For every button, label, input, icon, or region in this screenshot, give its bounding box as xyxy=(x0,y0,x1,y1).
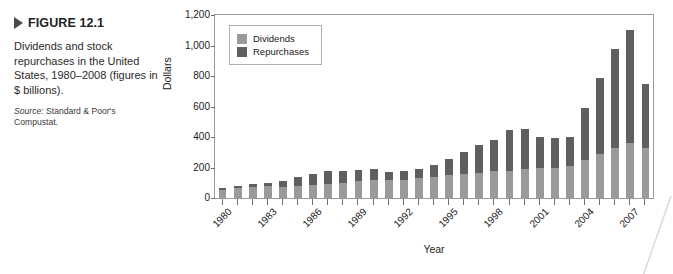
x-axis-tick-mark xyxy=(584,199,585,205)
bar-group[interactable] xyxy=(370,169,378,198)
y-axis-tick-label: 600 xyxy=(193,100,210,111)
bar-segment-dividends xyxy=(506,171,514,198)
bar-group[interactable] xyxy=(400,171,408,198)
bar-segment-dividends xyxy=(475,173,483,198)
legend-item[interactable]: Repurchases xyxy=(237,46,309,57)
bar-segment-dividends xyxy=(370,180,378,198)
bar-segment-repurchases xyxy=(309,174,317,185)
bar-segment-repurchases xyxy=(385,172,393,180)
x-axis-tick-mark xyxy=(418,199,419,205)
y-axis-tick-mark xyxy=(211,46,215,47)
x-axis-tick-mark xyxy=(629,199,630,205)
x-axis-tick-mark xyxy=(554,199,555,205)
bar-group[interactable] xyxy=(355,170,363,198)
bar-group[interactable] xyxy=(264,183,272,198)
bar-segment-dividends xyxy=(219,190,227,198)
bar-group[interactable] xyxy=(611,49,619,198)
bar-segment-repurchases xyxy=(400,171,408,179)
x-axis-tick-mark xyxy=(463,199,464,205)
bar-segment-repurchases xyxy=(339,171,347,183)
figure-header: FIGURE 12.1 xyxy=(14,16,159,30)
bar-group[interactable] xyxy=(521,129,529,198)
chart: Dollars 02004006008001,0001,200 Dividend… xyxy=(160,12,660,260)
bar-group[interactable] xyxy=(339,171,347,198)
y-axis-tick-mark xyxy=(211,168,215,169)
bar-group[interactable] xyxy=(324,171,332,198)
bar-segment-repurchases xyxy=(415,169,423,178)
bar-group[interactable] xyxy=(475,145,483,198)
bar-segment-dividends xyxy=(249,187,257,198)
bar-segment-dividends xyxy=(611,148,619,198)
caption-panel: FIGURE 12.1 Dividends and stock repurcha… xyxy=(14,16,159,128)
bar-group[interactable] xyxy=(294,177,302,198)
x-axis-tick-label: 1980 xyxy=(203,206,233,236)
bar-group[interactable] xyxy=(581,108,589,198)
bar-group[interactable] xyxy=(279,181,287,198)
bar-group[interactable] xyxy=(536,137,544,198)
legend-label: Repurchases xyxy=(253,46,309,57)
x-axis-tick-marks xyxy=(214,199,654,206)
bar-group[interactable] xyxy=(415,169,423,198)
legend-item[interactable]: Dividends xyxy=(237,33,309,44)
bar-group[interactable] xyxy=(642,84,650,198)
x-axis-tick-mark xyxy=(312,199,313,205)
bar-segment-repurchases xyxy=(370,169,378,180)
bar-segment-repurchases xyxy=(475,145,483,172)
bar-segment-repurchases xyxy=(506,130,514,170)
x-axis-tick-mark xyxy=(357,199,358,205)
bar-group[interactable] xyxy=(430,165,438,198)
y-axis-tick-label: 200 xyxy=(193,161,210,172)
figure-title: FIGURE 12.1 xyxy=(28,16,104,30)
bar-segment-dividends xyxy=(234,188,242,198)
bar-segment-dividends xyxy=(460,174,468,198)
x-axis-tick-label: 1992 xyxy=(384,206,414,236)
bar-group[interactable] xyxy=(309,174,317,198)
bar-segment-dividends xyxy=(596,154,604,198)
y-axis-title: Dollars xyxy=(161,57,173,90)
bar-segment-dividends xyxy=(264,186,272,198)
bar-segment-dividends xyxy=(430,177,438,198)
x-axis-tick-mark xyxy=(478,199,479,205)
y-axis-tick-label: 800 xyxy=(193,70,210,81)
bar-group[interactable] xyxy=(506,130,514,198)
y-axis-tick-label: 1,200 xyxy=(185,9,210,20)
bar-group[interactable] xyxy=(551,138,559,198)
x-axis-tick-label: 2004 xyxy=(565,206,595,236)
x-axis-tick-mark xyxy=(388,199,389,205)
y-axis-tick-mark xyxy=(211,107,215,108)
bar-group[interactable] xyxy=(385,172,393,198)
x-axis-tick-mark xyxy=(327,199,328,205)
bar-group[interactable] xyxy=(219,188,227,198)
bar-segment-repurchases xyxy=(581,108,589,160)
bar-group[interactable] xyxy=(490,140,498,198)
bar-segment-dividends xyxy=(279,187,287,198)
plot-frame: DividendsRepurchases xyxy=(214,14,654,199)
bar-segment-repurchases xyxy=(460,152,468,173)
figure-source: Source: Standard & Poor's Compustat. xyxy=(14,106,159,128)
bar-group[interactable] xyxy=(234,186,242,198)
bar-segment-dividends xyxy=(536,168,544,198)
plot-area: DividendsRepurchases xyxy=(215,15,653,198)
x-axis-tick-mark xyxy=(524,199,525,205)
bar-group[interactable] xyxy=(249,184,257,198)
bar-segment-dividends xyxy=(385,180,393,198)
bar-segment-dividends xyxy=(642,148,650,198)
bar-group[interactable] xyxy=(596,78,604,198)
y-axis-tick-label: 1,000 xyxy=(185,39,210,50)
figure-page: FIGURE 12.1 Dividends and stock repurcha… xyxy=(0,0,673,274)
bar-group[interactable] xyxy=(626,30,634,198)
x-axis-tick-mark xyxy=(282,199,283,205)
x-axis-tick-label: 2007 xyxy=(611,206,641,236)
x-axis-tick-mark xyxy=(448,199,449,205)
bar-group[interactable] xyxy=(445,159,453,198)
bar-group[interactable] xyxy=(566,137,574,198)
bar-group[interactable] xyxy=(460,152,468,198)
bar-segment-repurchases xyxy=(551,138,559,168)
bar-segment-dividends xyxy=(626,143,634,198)
x-axis-tick-mark xyxy=(509,199,510,205)
bar-segment-dividends xyxy=(415,178,423,198)
bar-segment-repurchases xyxy=(490,140,498,171)
legend-swatch-icon xyxy=(237,34,247,44)
bar-segment-repurchases xyxy=(611,49,619,147)
y-axis-tick-labels: 02004006008001,0001,200 xyxy=(174,12,210,202)
